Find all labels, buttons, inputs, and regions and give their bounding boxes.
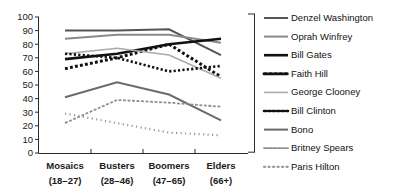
legend-item[interactable]: Faith Hill	[264, 68, 328, 79]
y-tick-label: 60	[22, 66, 33, 77]
y-tick-label: 80	[22, 39, 33, 50]
legend-item[interactable]: George Clooney	[264, 86, 360, 97]
series-line	[65, 114, 221, 136]
x-category-label: Mosaics	[46, 160, 84, 171]
series-line	[65, 54, 221, 72]
y-tick-label: 30	[22, 107, 33, 118]
y-axis: 0102030405060708090100	[17, 11, 39, 158]
legend-item-label: George Clooney	[291, 86, 360, 97]
y-tick-label: 100	[17, 11, 33, 22]
x-category-label: Elders	[206, 160, 235, 171]
series-line	[65, 100, 221, 123]
line-chart: 0102030405060708090100 Mosaics(18–27)Bus…	[0, 0, 398, 192]
y-tick-label: 40	[22, 93, 33, 104]
series-layer	[65, 29, 221, 135]
legend-item-label: Denzel Washington	[291, 12, 373, 23]
legend-item[interactable]: Bono	[264, 124, 313, 135]
legend-item-label: Faith Hill	[291, 68, 328, 79]
legend-item[interactable]: Bill Gates	[264, 49, 332, 60]
y-tick-label: 20	[22, 120, 33, 131]
x-category-sublabel: (47–65)	[153, 175, 186, 186]
series-line	[65, 48, 221, 78]
y-tick-label: 90	[22, 25, 33, 36]
x-category-sublabel: (18–27)	[49, 175, 82, 186]
x-category-sublabel: (28–46)	[101, 175, 134, 186]
y-tick-label: 70	[22, 52, 33, 63]
legend-item[interactable]: Britney Spears	[264, 142, 354, 153]
y-tick-label: 50	[22, 79, 33, 90]
legend-item[interactable]: Oprah Winfrey	[264, 31, 352, 42]
legend-item-label: Bill Clinton	[291, 105, 336, 116]
legend-item-label: Britney Spears	[291, 142, 354, 153]
legend-item[interactable]: Paris Hilton	[264, 161, 340, 172]
legend-item-label: Bono	[291, 124, 313, 135]
x-category-sublabel: (66+)	[210, 175, 232, 186]
legend-item-label: Paris Hilton	[291, 161, 340, 172]
legend-item-label: Oprah Winfrey	[291, 31, 352, 42]
x-axis: Mosaics(18–27)Busters(28–46)Boomers(47–6…	[39, 149, 249, 186]
legend-item[interactable]: Denzel Washington	[264, 12, 373, 23]
chart-legend: Denzel WashingtonOprah WinfreyBill Gates…	[248, 12, 373, 172]
legend-item[interactable]: Bill Clinton	[264, 105, 336, 116]
chart-figure: 0102030405060708090100 Mosaics(18–27)Bus…	[0, 0, 398, 192]
y-tick-label: 10	[22, 134, 33, 145]
y-tick-label: 0	[28, 147, 33, 158]
x-category-label: Busters	[99, 160, 134, 171]
x-category-label: Boomers	[148, 160, 189, 171]
legend-item-label: Bill Gates	[291, 49, 332, 60]
